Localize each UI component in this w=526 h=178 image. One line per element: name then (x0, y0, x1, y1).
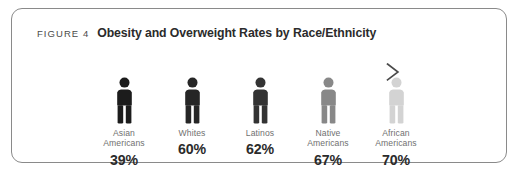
person-figure-icon (317, 77, 340, 124)
group-label-line1: Asian (103, 128, 145, 138)
pictogram-group-latinos: Latinos 62% (226, 77, 294, 157)
person-figure-icon (113, 77, 136, 124)
group-label-line2: Americans (375, 138, 417, 148)
group-label-line2: Americans (103, 138, 145, 148)
figure-header: FIGURE 4 Obesity and Overweight Rates by… (37, 26, 376, 40)
pictogram-group-asian-americans: Asian Americans 39% (90, 77, 158, 168)
person-figure-icon (385, 77, 408, 124)
group-label: Native Americans (307, 128, 349, 149)
group-value: 70% (382, 152, 410, 168)
person-figure-icon (249, 77, 272, 124)
group-label: Whites (179, 128, 206, 138)
person-figure-icon (181, 77, 204, 124)
group-value: 60% (178, 141, 206, 157)
group-value: 39% (110, 152, 138, 168)
group-label: Latinos (246, 128, 274, 138)
group-label: African Americans (375, 128, 417, 149)
group-label-line1: African (375, 128, 417, 138)
group-value: 62% (246, 141, 274, 157)
pictogram-group-african-americans: African Americans 70% (362, 77, 430, 168)
group-label-line1: Whites (179, 128, 206, 138)
pictogram-group-whites: Whites 60% (158, 77, 226, 157)
pictogram-row: Asian Americans 39% Whites 60% (29, 77, 491, 168)
group-label-line2: Americans (307, 138, 349, 148)
figure-title: Obesity and Overweight Rates by Race/Eth… (97, 26, 376, 40)
figure-number-label: FIGURE 4 (37, 28, 89, 39)
group-label: Asian Americans (103, 128, 145, 149)
pictogram-group-native-americans: Native Americans 67% (294, 77, 362, 168)
group-label-line1: Native (307, 128, 349, 138)
group-label-line1: Latinos (246, 128, 274, 138)
figure-card: FIGURE 4 Obesity and Overweight Rates by… (11, 8, 507, 163)
group-value: 67% (314, 152, 342, 168)
